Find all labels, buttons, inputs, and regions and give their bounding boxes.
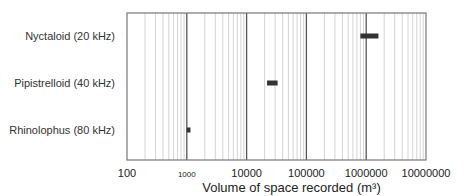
range-bar [267, 81, 278, 86]
x-tick-label: 1000 [178, 170, 196, 179]
chart: Nyctaloid (20 kHz)Pipistrelloid (40 kHz)… [0, 0, 470, 196]
category-label: Nyctaloid (20 kHz) [25, 30, 115, 42]
x-axis-title: Volume of space recorded (m³) [202, 180, 380, 195]
x-tick-label: 100000 [288, 167, 325, 179]
x-tick-label: 10000 [231, 167, 262, 179]
range-bar [360, 34, 378, 39]
plot-frame [127, 13, 426, 160]
range-bar [187, 128, 191, 133]
category-label: Pipistrelloid (40 kHz) [14, 77, 115, 89]
category-label: Rhinolophus (80 kHz) [9, 124, 115, 136]
x-tick-label: 10000000 [402, 167, 451, 179]
x-tick-label: 100 [118, 167, 136, 179]
grid [145, 13, 423, 160]
x-tick-label: 1000000 [345, 167, 388, 179]
